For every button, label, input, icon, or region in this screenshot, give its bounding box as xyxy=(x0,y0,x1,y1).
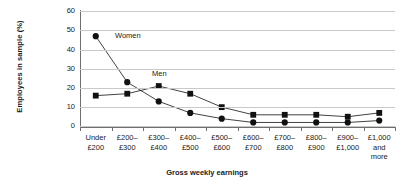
x-tick xyxy=(332,127,333,131)
x-tick xyxy=(143,127,144,131)
x-tick-label: £400– £500 xyxy=(175,133,207,152)
y-tick-label: 10 xyxy=(53,103,75,111)
chart-container: Employees in sample (%) Women Men Gross … xyxy=(0,0,414,183)
x-tick-label: £1,000 and more xyxy=(364,133,396,162)
gridline xyxy=(80,107,395,108)
data-point xyxy=(376,110,382,116)
data-point xyxy=(93,33,99,39)
x-tick xyxy=(395,127,396,131)
x-tick xyxy=(112,127,113,131)
data-point xyxy=(124,79,130,85)
gridline xyxy=(80,30,395,31)
data-point xyxy=(282,112,288,118)
data-point xyxy=(313,119,319,125)
data-point xyxy=(219,116,225,122)
x-tick-label: £800– £900 xyxy=(301,133,333,152)
series-label-women: Women xyxy=(115,31,141,40)
y-tick-label: 60 xyxy=(53,7,75,15)
gridline xyxy=(80,88,395,89)
x-tick-label: £600– £700 xyxy=(238,133,270,152)
y-tick-label: 20 xyxy=(53,84,75,92)
x-tick-label: Under £200 xyxy=(80,133,112,152)
x-axis-title: Gross weekly earnings xyxy=(0,168,414,177)
data-point xyxy=(250,119,256,125)
y-tick-label: 40 xyxy=(53,46,75,54)
data-point xyxy=(250,112,256,118)
series-label-men: Men xyxy=(152,69,167,78)
x-tick xyxy=(301,127,302,131)
x-tick-label: £300– £400 xyxy=(143,133,175,152)
data-point xyxy=(187,110,193,116)
data-point xyxy=(376,117,382,123)
gridline xyxy=(80,11,395,12)
data-point xyxy=(156,98,162,104)
x-tick xyxy=(269,127,270,131)
gridline xyxy=(80,50,395,51)
series-line-men xyxy=(96,86,380,117)
x-tick xyxy=(175,127,176,131)
x-tick-label: £900– £1,000 xyxy=(332,133,364,152)
x-tick-label: £700– £800 xyxy=(269,133,301,152)
y-tick-label: 50 xyxy=(53,26,75,34)
x-tick-label: £200– £300 xyxy=(112,133,144,152)
data-point xyxy=(282,119,288,125)
x-tick xyxy=(206,127,207,131)
data-point xyxy=(93,93,99,99)
x-tick-label: £500– £600 xyxy=(206,133,238,152)
x-tick xyxy=(80,127,81,131)
x-tick xyxy=(364,127,365,131)
data-point xyxy=(345,119,351,125)
y-tick-label: 30 xyxy=(53,65,75,73)
y-tick-label: 0 xyxy=(53,122,75,130)
data-point xyxy=(345,114,351,120)
x-tick xyxy=(238,127,239,131)
data-point xyxy=(124,91,130,97)
data-point xyxy=(187,91,193,97)
gridline xyxy=(80,69,395,70)
data-point xyxy=(313,112,319,118)
